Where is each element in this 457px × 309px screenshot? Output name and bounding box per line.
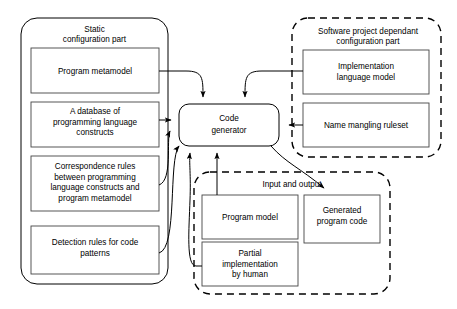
node-partial-implementation-label-line2: implementation	[222, 260, 278, 269]
node-correspondence-rules-label-line1: Correspondence rules	[55, 162, 136, 171]
node-program-metamodel[interactable]: Program metamodel	[31, 48, 159, 93]
group-static-configuration-part-label-line2: configuration part	[63, 35, 127, 44]
node-implementation-language-model-label-line1: Implementation	[338, 62, 394, 71]
node-generated-program-code-label-line2: program code	[317, 217, 368, 226]
node-program-metamodel-label-line1: Program metamodel	[58, 67, 132, 76]
node-detection-rules-for-code-patterns[interactable]: Detection rules for code patterns	[31, 226, 159, 274]
node-generated-program-code-label-line1: Generated	[323, 206, 362, 215]
node-correspondence-rules[interactable]: Correspondence rules between programming…	[31, 156, 159, 211]
node-correspondence-rules-label-line3: language constructs and	[50, 183, 140, 192]
diagram-canvas: Static configuration part Program metamo…	[0, 0, 457, 309]
node-code-generator-label-line1: Code	[219, 114, 239, 123]
architecture-diagram: Static configuration part Program metamo…	[0, 0, 457, 309]
node-implementation-language-model[interactable]: Implementation language model	[303, 50, 429, 94]
node-code-generator-box[interactable]	[179, 104, 279, 146]
group-static-configuration-part-label-line1: Static	[84, 25, 104, 34]
group-static-configuration-part: Static configuration part Program metamo…	[21, 18, 168, 284]
group-software-project-dependant-label-line1: Software project dependant	[318, 27, 419, 36]
connector-partial-implementation-to-code-generator	[189, 153, 202, 266]
node-partial-implementation-label-line3: by human	[232, 270, 268, 279]
node-code-generator-label-line2: generator	[211, 126, 246, 135]
node-generated-program-code[interactable]: Generated program code	[304, 195, 380, 243]
node-name-mangling-ruleset-label-line1: Name mangling ruleset	[324, 121, 409, 130]
node-code-generator[interactable]: Code generator	[179, 104, 279, 146]
group-input-and-output: Input and output Program model Partial i…	[194, 172, 390, 294]
node-database-label-line3: constructs	[76, 128, 113, 137]
node-program-model-label-line1: Program model	[222, 213, 278, 222]
node-implementation-language-model-label-line2: language model	[337, 73, 395, 82]
connector-implementation-language-model-to-code-generator	[245, 71, 303, 97]
node-correspondence-rules-label-line4: program metamodel	[58, 194, 131, 203]
node-database-of-programming-language-constructs[interactable]: A database of programming language const…	[31, 102, 159, 147]
group-input-and-output-label: Input and output	[262, 180, 322, 189]
connector-program-metamodel-to-code-generator	[159, 71, 203, 97]
node-database-label-line1: A database of	[70, 107, 121, 116]
group-software-project-dependant-label-line2: configuration part	[336, 37, 400, 46]
node-partial-implementation-by-human[interactable]: Partial implementation by human	[202, 242, 298, 286]
node-correspondence-rules-label-line2: between programming	[54, 173, 136, 182]
node-detection-rules-label-line2: patterns	[80, 249, 110, 258]
node-name-mangling-ruleset[interactable]: Name mangling ruleset	[303, 103, 429, 147]
node-partial-implementation-label-line1: Partial	[238, 249, 261, 258]
node-detection-rules-label-line1: Detection rules for code	[52, 238, 139, 247]
node-database-label-line2: programming language	[53, 118, 138, 127]
connector-detection-rules-to-code-generator	[159, 146, 179, 253]
node-program-model[interactable]: Program model	[202, 195, 298, 239]
group-software-project-dependant-configuration-part: Software project dependant configuration…	[292, 18, 441, 157]
